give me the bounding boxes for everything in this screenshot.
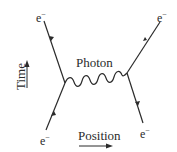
electron-label-left-top: e− xyxy=(36,8,46,25)
electron-line-right-bottom xyxy=(127,73,143,123)
position-axis-label: Position xyxy=(78,129,121,142)
time-axis-label: Time xyxy=(14,63,27,90)
photon-propagator xyxy=(65,71,127,86)
electron-line-right-top xyxy=(127,22,160,73)
electron-label-right-top: e− xyxy=(157,8,167,25)
electron-label-right-bottom: e− xyxy=(140,124,150,141)
arrow-right-top-icon xyxy=(143,37,147,41)
position-axis-arrow-icon xyxy=(106,144,113,149)
photon-label: Photon xyxy=(76,56,113,69)
electron-label-left-bottom: e− xyxy=(40,131,50,148)
electron-line-left-bottom xyxy=(46,83,65,130)
electron-line-left-top xyxy=(44,21,65,83)
